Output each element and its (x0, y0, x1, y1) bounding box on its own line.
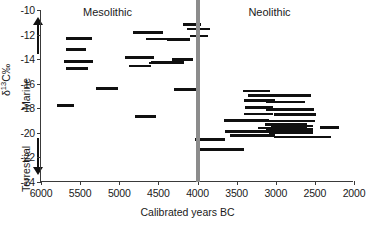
x-tick (158, 181, 159, 185)
y-tick (37, 84, 41, 85)
mesolithic-neolithic-boundary (196, 0, 200, 182)
y-tick (37, 35, 41, 36)
x-tick-label: 3500 (225, 187, 248, 199)
arrow-down-icon (37, 138, 39, 168)
range-bar (167, 38, 190, 41)
x-tick-label: 4000 (186, 187, 209, 199)
range-bar (66, 67, 88, 70)
x-tick (237, 181, 238, 185)
x-tick-label: 2000 (343, 187, 366, 199)
x-axis-title: Calibrated years BC (0, 206, 375, 218)
y-tick-label: -20 (20, 127, 35, 139)
range-bar (135, 115, 156, 118)
range-bar (96, 87, 119, 90)
range-bar (133, 31, 163, 34)
period-label-neolithic: Neolithic (248, 6, 290, 18)
x-tick (354, 181, 355, 185)
y-tick (37, 10, 41, 11)
y-tick-label: -16 (20, 78, 35, 90)
x-tick (41, 181, 42, 185)
range-bar (66, 48, 86, 51)
range-bar (57, 104, 73, 107)
x-tick-label: 2500 (304, 187, 327, 199)
range-bar (274, 136, 330, 139)
y-tick-label: -10 (20, 4, 35, 16)
range-bar (274, 113, 316, 116)
range-bar (269, 131, 314, 134)
arrow-up-icon (37, 24, 39, 54)
range-bar (195, 138, 225, 141)
range-bar (64, 60, 92, 63)
range-bar (129, 65, 151, 68)
range-bar (151, 61, 185, 64)
range-bar (243, 90, 270, 93)
range-bar (196, 148, 245, 151)
x-tick-label: 5500 (69, 187, 92, 199)
range-bar (125, 56, 154, 59)
range-bar (174, 88, 196, 91)
range-bar (248, 94, 311, 97)
x-tick-label: 4500 (147, 187, 170, 199)
range-bar (266, 108, 315, 111)
y-tick-label: -14 (20, 53, 35, 65)
range-bar (230, 134, 275, 137)
x-tick-label: 6000 (30, 187, 53, 199)
range-bar (66, 37, 92, 40)
y-tick (37, 157, 41, 158)
x-tick (80, 181, 81, 185)
y-tick (37, 59, 41, 60)
range-bar (266, 101, 305, 104)
range-bar (225, 130, 271, 133)
x-tick (276, 181, 277, 185)
chart-root: δ13C‰ Marine Terrestrial -10-12-14-16-18… (0, 0, 375, 230)
y-axis-title: δ13C‰ (0, 64, 12, 96)
range-bar (320, 126, 340, 129)
x-tick-label: 5000 (108, 187, 131, 199)
plot-area: -10-12-14-16-18-20-22-246000550050004500… (40, 10, 353, 182)
x-tick-label: 3000 (264, 187, 287, 199)
y-tick-label: -18 (20, 102, 35, 114)
y-tick (37, 133, 41, 134)
x-tick (119, 181, 120, 185)
period-label-mesolithic: Mesolithic (83, 6, 132, 18)
x-tick (315, 181, 316, 185)
y-tick-label: -12 (20, 29, 35, 41)
y-tick (37, 108, 41, 109)
y-tick-label: -22 (20, 151, 35, 163)
y-axis-title-text: δ13C‰ (0, 64, 12, 96)
range-bar (244, 113, 272, 116)
range-bar (172, 58, 193, 61)
